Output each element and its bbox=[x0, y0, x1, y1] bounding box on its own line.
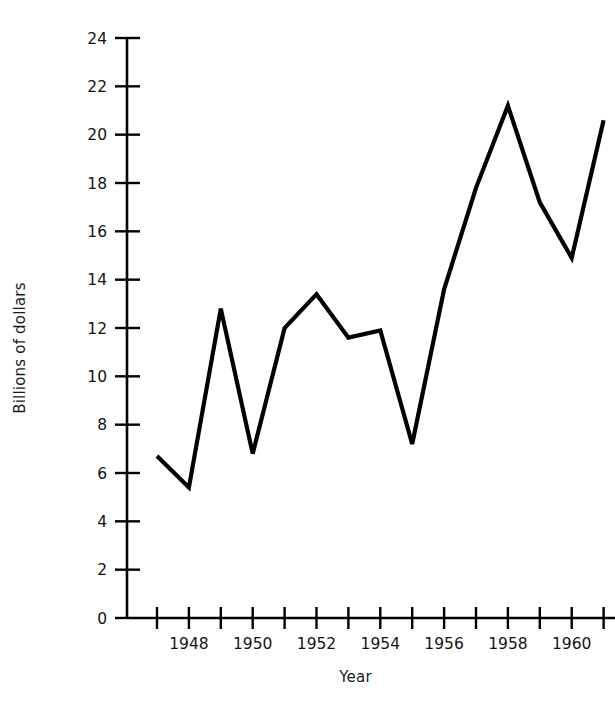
y-tick-label: 12 bbox=[87, 320, 107, 338]
y-tick-label: 2 bbox=[97, 561, 107, 579]
x-tick-label: 1950 bbox=[233, 635, 272, 653]
plot-area: 0246810121416182022241948195019521954195… bbox=[0, 0, 615, 708]
y-tick-label: 18 bbox=[87, 175, 107, 193]
x-tick-label: 1958 bbox=[488, 635, 527, 653]
y-tick-label: 10 bbox=[87, 368, 107, 386]
y-tick-label: 4 bbox=[97, 513, 107, 531]
x-tick-label: 1956 bbox=[424, 635, 463, 653]
y-tick-label: 16 bbox=[87, 223, 107, 241]
y-tick-label: 20 bbox=[87, 126, 107, 144]
y-tick-label: 6 bbox=[97, 465, 107, 483]
line-chart: Billions of dollars Year 024681012141618… bbox=[0, 0, 615, 708]
x-tick-label: 1954 bbox=[361, 635, 400, 653]
x-tick-label: 1952 bbox=[297, 635, 336, 653]
x-tick-label: 1960 bbox=[552, 635, 591, 653]
data-line-series-0 bbox=[157, 106, 604, 488]
y-tick-label: 8 bbox=[97, 416, 107, 434]
y-tick-label: 24 bbox=[87, 30, 107, 48]
y-tick-label: 14 bbox=[87, 271, 107, 289]
y-tick-label: 22 bbox=[87, 78, 107, 96]
y-tick-label: 0 bbox=[97, 610, 107, 628]
x-tick-label: 1948 bbox=[169, 635, 208, 653]
